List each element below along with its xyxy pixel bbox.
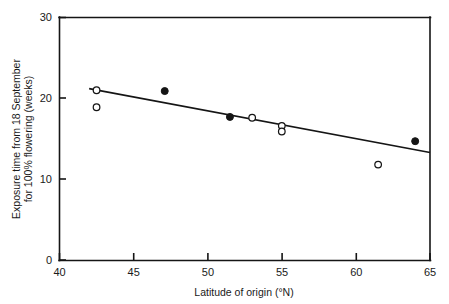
x-tick-label-55: 55 xyxy=(276,266,288,278)
y-tick-labels: 0 10 20 30 xyxy=(40,11,52,266)
x-axis-title: Latitude of origin (°N) xyxy=(194,286,293,298)
data-point-open-circles-1 xyxy=(93,104,100,111)
x-tick-label-45: 45 xyxy=(128,266,140,278)
y-axis-title-line-2: for 100% flowering (weeks) xyxy=(22,76,34,203)
axis-frame xyxy=(59,17,431,261)
data-point-filled-circles-0 xyxy=(161,88,168,95)
x-tick-labels: 40 45 50 55 60 65 xyxy=(53,266,436,278)
scatter-plot: 0 10 20 30 40 45 50 55 60 65 Latitude of… xyxy=(0,0,449,304)
x-tick-label-40: 40 xyxy=(53,266,65,278)
y-tick-label-20: 20 xyxy=(40,92,52,104)
y-tick-label-0: 0 xyxy=(46,254,52,266)
regression-trend-line xyxy=(89,89,430,153)
data-point-open-circles-5 xyxy=(375,161,382,168)
x-tick-label-50: 50 xyxy=(202,266,214,278)
y-axis-title: Exposure time from 18 September for 100%… xyxy=(10,59,34,219)
x-tick-label-65: 65 xyxy=(424,266,436,278)
data-point-open-circles-0 xyxy=(93,87,100,94)
x-tick-label-60: 60 xyxy=(350,266,362,278)
data-point-filled-circles-2 xyxy=(412,138,419,145)
chart-figure: 0 10 20 30 40 45 50 55 60 65 Latitude of… xyxy=(0,0,449,304)
y-tick-marks xyxy=(60,18,67,261)
data-point-open-circles-4 xyxy=(279,128,286,135)
data-point-open-circles-2 xyxy=(249,114,256,121)
y-axis-title-line-1: Exposure time from 18 September xyxy=(10,59,22,219)
y-tick-label-10: 10 xyxy=(40,173,52,185)
y-tick-label-30: 30 xyxy=(40,11,52,23)
data-point-filled-circles-1 xyxy=(226,113,233,120)
x-tick-marks xyxy=(60,253,431,260)
